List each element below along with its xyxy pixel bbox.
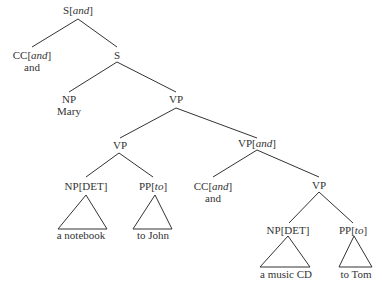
node-pp-to-1: PP[to] <box>139 180 167 192</box>
node-np-det-2: NP[DET] <box>267 224 310 236</box>
node-s: S <box>114 49 120 61</box>
word-and-2: and <box>205 192 221 204</box>
node-s-and: S[and] <box>63 4 93 16</box>
node-np: NP <box>62 93 76 105</box>
node-cc-and-1: CC[and] <box>13 49 52 61</box>
syntax-tree-diagram: S[and] CC[and] and S NP Mary VP VP VP[an… <box>0 0 384 286</box>
word-to-john: to John <box>137 229 169 241</box>
node-vp-top: VP <box>169 93 183 105</box>
node-vp-left: VP <box>113 139 127 151</box>
word-to-tom: to Tom <box>340 268 371 280</box>
word-a-music-cd: a music CD <box>260 268 312 280</box>
word-mary: Mary <box>57 105 81 117</box>
word-and-1: and <box>24 61 40 73</box>
node-cc-and-2: CC[and] <box>194 180 233 192</box>
node-pp-to-2: PP[to] <box>339 224 367 236</box>
tree-edges <box>0 0 384 286</box>
word-a-notebook: a notebook <box>57 229 106 241</box>
node-vp-right: VP <box>312 179 326 191</box>
node-vp-and: VP[and] <box>238 137 276 149</box>
node-np-det-1: NP[DET] <box>65 180 108 192</box>
